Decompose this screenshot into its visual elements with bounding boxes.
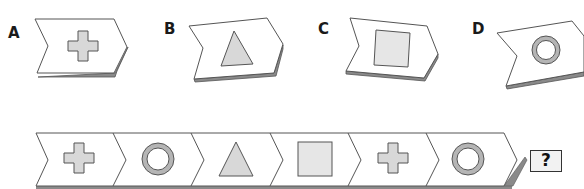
missing-item-question-box: ? — [530, 150, 562, 172]
sequence-item-6-ring-icon — [452, 143, 484, 175]
sequence-strip — [36, 133, 527, 189]
option-d[interactable] — [497, 21, 584, 89]
sequence-item-2-ring-icon — [142, 143, 174, 175]
option-c[interactable] — [346, 18, 438, 81]
sequence-item-4-square-icon — [298, 142, 332, 176]
option-b[interactable] — [189, 18, 283, 82]
option-a[interactable] — [35, 19, 128, 77]
square-icon — [374, 30, 410, 67]
puzzle-canvas — [0, 0, 584, 189]
ring-icon — [532, 36, 560, 64]
